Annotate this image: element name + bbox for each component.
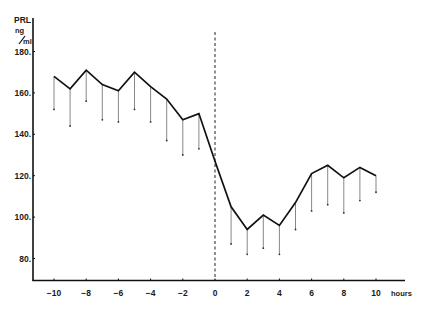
error-bar-end <box>246 253 248 255</box>
error-bar-end <box>327 204 329 206</box>
x-axis-label: hours <box>391 289 412 298</box>
x-tick-label: 0 <box>213 288 218 298</box>
x-tick-label: −4 <box>146 288 156 298</box>
error-bar-end <box>295 229 297 231</box>
error-bar-end <box>359 200 361 202</box>
axes <box>32 18 405 281</box>
error-bar-end <box>198 148 200 150</box>
y-axis-label: PRLngml <box>14 15 32 46</box>
error-bar-end <box>118 121 120 123</box>
error-bar-end <box>279 253 281 255</box>
x-tick-label: −2 <box>178 288 188 298</box>
y-tick-label: 100. <box>14 212 31 222</box>
y-axis-unit-numerator: ng <box>15 26 25 35</box>
x-tick-label: 10 <box>371 288 381 298</box>
y-tick-label: 180. <box>14 47 31 57</box>
error-bar-end <box>262 247 264 249</box>
y-tick-label: 120. <box>14 171 31 181</box>
error-bar-end <box>343 212 345 214</box>
x-tick-label: −8 <box>81 288 91 298</box>
x-axis-ticks: −10−8−6−4−20246810 <box>47 279 381 299</box>
error-bar-end <box>166 140 168 142</box>
y-tick-label: 80. <box>19 254 31 264</box>
y-tick-label: 160. <box>14 88 31 98</box>
error-bar-end <box>182 154 184 156</box>
x-tick-label: −10 <box>47 288 62 298</box>
y-axis-unit-denominator: ml <box>23 37 32 46</box>
prl-line-chart: 80.100.120.140.160.180. −10−8−6−4−202468… <box>0 0 425 313</box>
y-axis-ticks: 80.100.120.140.160.180. <box>14 47 35 264</box>
x-tick-label: 2 <box>245 288 250 298</box>
x-tick-label: 6 <box>309 288 314 298</box>
error-bar-end <box>311 210 313 212</box>
x-tick-label: 4 <box>277 288 282 298</box>
error-bar-end <box>230 243 232 245</box>
error-bar-end <box>53 109 55 111</box>
y-axis-title: PRL <box>14 15 31 25</box>
error-bar-end <box>375 191 377 193</box>
x-axis-title: hours <box>391 289 412 298</box>
error-bar-end <box>85 100 87 102</box>
error-bar-end <box>101 119 103 121</box>
error-bar-end <box>150 121 152 123</box>
x-tick-label: −6 <box>114 288 124 298</box>
error-bar-end <box>69 125 71 127</box>
x-tick-label: 8 <box>341 288 346 298</box>
y-tick-label: 140. <box>14 129 31 139</box>
error-bar-end <box>134 109 136 111</box>
